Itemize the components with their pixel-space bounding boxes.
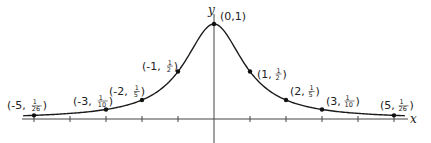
svg-text:10: 10 — [98, 101, 106, 109]
svg-text:(-3,: (-3, — [73, 95, 92, 108]
y-axis-label: y — [207, 3, 215, 17]
graph-canvas: (-5,126)(-3,110)(-2,15)(-1,12)(0,1)(1,12… — [0, 0, 431, 143]
svg-text:5: 5 — [134, 91, 138, 99]
svg-text:(1,: (1, — [257, 68, 272, 81]
point-label: (-1,12) — [142, 59, 178, 74]
data-point — [248, 69, 252, 73]
point-label: (-5,126) — [7, 98, 47, 113]
svg-text:5: 5 — [309, 91, 313, 99]
svg-text:26: 26 — [32, 105, 40, 113]
svg-text:): ) — [316, 85, 320, 98]
data-point — [392, 113, 396, 117]
x-axis-label: x — [410, 112, 417, 126]
svg-text:2: 2 — [167, 66, 171, 74]
data-point — [32, 113, 36, 117]
svg-text:2: 2 — [276, 74, 280, 82]
svg-text:26: 26 — [399, 105, 407, 113]
data-point — [140, 98, 144, 102]
data-point — [212, 22, 216, 26]
point-label: (-3,110) — [73, 94, 113, 109]
svg-text:(5,: (5, — [380, 99, 395, 112]
svg-text:(3,: (3, — [326, 95, 341, 108]
svg-text:): ) — [410, 99, 414, 112]
svg-text:): ) — [356, 95, 360, 108]
svg-text:10: 10 — [345, 101, 353, 109]
svg-text:): ) — [283, 68, 287, 81]
svg-text:(2,: (2, — [290, 85, 305, 98]
point-label: (-2,15) — [109, 84, 145, 99]
point-label: (5,126) — [380, 98, 414, 113]
svg-text:(-2,: (-2, — [109, 85, 128, 98]
svg-text:(0,1): (0,1) — [220, 10, 246, 23]
point-label: (3,110) — [326, 94, 360, 109]
svg-text:): ) — [43, 99, 47, 112]
svg-text:(-5,: (-5, — [7, 99, 26, 112]
point-label: (1,12) — [257, 67, 287, 82]
svg-text:): ) — [174, 60, 178, 73]
point-label: (0,1) — [220, 10, 246, 23]
data-point — [320, 107, 324, 111]
point-label: (2,15) — [290, 84, 320, 99]
data-point — [284, 98, 288, 102]
svg-text:): ) — [141, 85, 145, 98]
svg-text:(-1,: (-1, — [142, 60, 161, 73]
